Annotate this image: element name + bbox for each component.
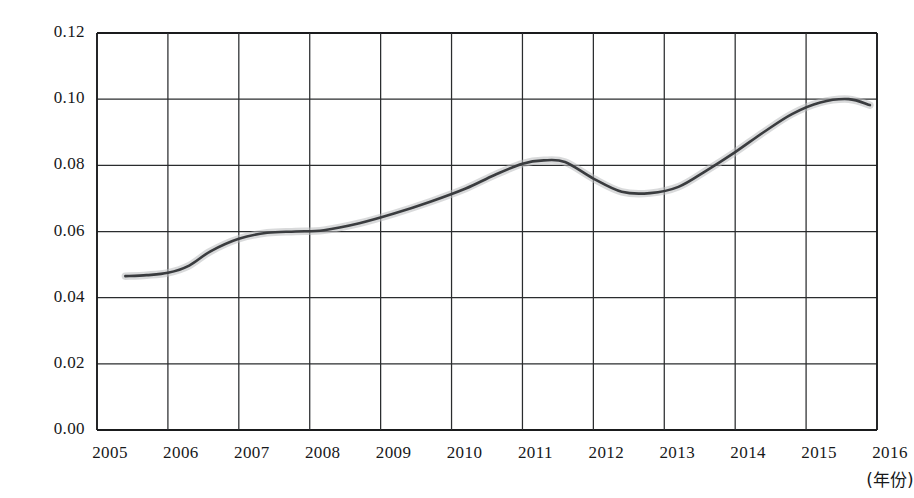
x-tick-label-2015: 2015: [779, 443, 859, 463]
x-tick-label-2016: 2016: [850, 443, 914, 463]
y-tick-label-0.00: 0.00: [15, 419, 85, 439]
y-tick-label-0.08: 0.08: [15, 154, 85, 174]
x-tick-label-2010: 2010: [425, 443, 505, 463]
y-tick-label-0.06: 0.06: [15, 221, 85, 241]
x-tick-label-2007: 2007: [212, 443, 292, 463]
y-tick-label-0.02: 0.02: [15, 353, 85, 373]
x-tick-label-2008: 2008: [283, 443, 363, 463]
data-line-value: [125, 99, 870, 276]
x-tick-label-2012: 2012: [566, 443, 646, 463]
x-tick-label-2009: 2009: [354, 443, 434, 463]
y-tick-label-0.10: 0.10: [15, 88, 85, 108]
x-tick-label-2005: 2005: [70, 443, 150, 463]
x-tick-label-2006: 2006: [141, 443, 221, 463]
x-axis-unit-label: (年份): [845, 466, 914, 491]
y-tick-label-0.04: 0.04: [15, 287, 85, 307]
data-line-halo: [125, 99, 870, 276]
x-tick-label-2013: 2013: [637, 443, 717, 463]
chart-container: 0.000.020.040.060.080.100.12 20052006200…: [0, 0, 914, 498]
y-tick-label-0.12: 0.12: [15, 22, 85, 42]
x-tick-label-2014: 2014: [708, 443, 788, 463]
line-chart-svg: [0, 0, 914, 498]
x-tick-label-2011: 2011: [495, 443, 575, 463]
